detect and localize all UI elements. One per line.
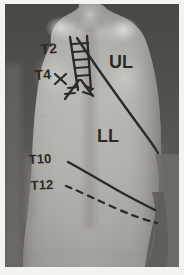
photograph-figure: T2 T4 T10 T12 UL LL: [0, 0, 184, 275]
back-photograph: T2 T4 T10 T12 UL LL: [5, 4, 179, 267]
noise-layer: [5, 4, 179, 267]
photo-frame: T2 T4 T10 T12 UL LL: [5, 4, 179, 267]
